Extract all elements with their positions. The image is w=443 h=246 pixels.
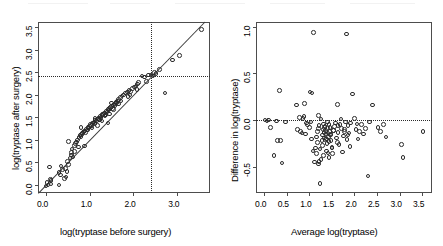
- data-point: [311, 30, 316, 35]
- data-point: [348, 144, 353, 149]
- x-tick-label-R3: 1.5: [323, 199, 334, 209]
- data-point: [330, 145, 335, 150]
- data-point: [314, 151, 319, 156]
- y-tick-L0: [35, 185, 38, 186]
- data-point: [378, 129, 383, 134]
- vertical-threshold-line: [151, 22, 152, 193]
- y-tick-L7: [35, 27, 38, 28]
- data-point: [335, 140, 340, 145]
- data-point: [268, 125, 273, 130]
- x-axis-title-left: log(tryptase before surgery): [60, 226, 171, 237]
- data-point: [49, 178, 54, 183]
- y-tick-label-L7: 3.5: [24, 26, 34, 37]
- data-point: [399, 142, 404, 147]
- data-point: [321, 153, 326, 158]
- data-point: [66, 162, 71, 167]
- x-tick-R2: [309, 193, 310, 196]
- data-point: [177, 53, 182, 58]
- data-point: [309, 137, 314, 142]
- data-point: [57, 170, 62, 175]
- x-tick-L0: [46, 193, 47, 196]
- y-tick-R0: [253, 167, 256, 168]
- data-point: [317, 159, 322, 164]
- y-tick-label-R3: 1.0: [242, 25, 252, 36]
- x-tick-R4: [354, 193, 355, 196]
- x-tick-label-R5: 2.5: [368, 199, 379, 209]
- x-axis-title-right: Average log(tryptase): [291, 226, 377, 237]
- x-tick-R7: [422, 193, 423, 196]
- data-point: [350, 92, 355, 97]
- data-point: [66, 139, 71, 144]
- data-point: [85, 128, 90, 133]
- x-tick-label-R6: 3.0: [391, 199, 402, 209]
- x-tick-L2: [133, 193, 134, 196]
- data-point: [135, 87, 140, 92]
- data-point: [95, 123, 100, 128]
- x-tick-label-R4: 2.0: [345, 199, 356, 209]
- x-tick-R6: [400, 193, 401, 196]
- data-point: [315, 140, 320, 145]
- data-point: [342, 127, 347, 132]
- data-point: [307, 125, 312, 130]
- data-point: [116, 102, 121, 107]
- data-point: [152, 70, 157, 75]
- data-point: [277, 88, 282, 93]
- data-point: [278, 138, 283, 143]
- x-tick-label-L0: 0.0: [37, 199, 48, 209]
- x-tick-R1: [287, 193, 288, 196]
- data-point: [330, 151, 335, 156]
- y-tick-R3: [253, 27, 256, 28]
- data-point: [136, 80, 141, 85]
- y-tick-L1: [35, 162, 38, 163]
- data-point: [361, 132, 366, 137]
- data-point: [340, 150, 345, 155]
- y-axis-title-left: log(tryptase after surgery): [10, 67, 21, 170]
- data-point: [76, 145, 81, 150]
- x-tick-R0: [264, 193, 265, 196]
- data-point: [170, 58, 175, 63]
- y-tick-L4: [35, 95, 38, 96]
- data-point: [363, 126, 368, 131]
- data-point: [69, 153, 74, 158]
- y-tick-L2: [35, 140, 38, 141]
- x-tick-label-R7: 3.5: [413, 199, 424, 209]
- data-point: [65, 169, 70, 174]
- data-point: [109, 101, 114, 106]
- y-tick-label-L4: 2.0: [24, 94, 34, 105]
- data-point: [302, 114, 307, 119]
- y-tick-label-L5: 2.5: [24, 71, 34, 82]
- data-point: [302, 101, 307, 106]
- horizontal-threshold-line: [38, 76, 210, 77]
- x-tick-label-L3: 3.0: [168, 199, 179, 209]
- data-point: [144, 79, 149, 84]
- y-tick-label-R0: -0.5: [242, 163, 252, 177]
- data-point: [107, 112, 112, 117]
- y-tick-label-L3: 1.5: [24, 116, 34, 127]
- y-tick-label-L6: 3.0: [24, 49, 34, 60]
- plot-frame-right: [256, 22, 432, 193]
- x-tick-L3: [177, 193, 178, 196]
- y-tick-L6: [35, 50, 38, 51]
- x-tick-label-R0: 0.0: [255, 199, 266, 209]
- y-tick-label-R1: 0.0: [242, 119, 252, 130]
- y-tick-label-R2: 0.5: [242, 72, 252, 83]
- y-tick-L3: [35, 117, 38, 118]
- data-point: [381, 122, 386, 127]
- data-point: [352, 116, 357, 121]
- x-tick-label-R1: 0.5: [278, 199, 289, 209]
- data-point: [314, 135, 319, 140]
- x-tick-L1: [90, 193, 91, 196]
- data-point: [320, 143, 325, 148]
- y-axis-title-right: Difference in log(tryptase): [229, 79, 240, 182]
- data-point: [335, 102, 340, 107]
- data-point: [79, 125, 84, 130]
- x-tick-R3: [332, 193, 333, 196]
- y-tick-label-L1: 0.5: [24, 161, 34, 172]
- data-point: [421, 129, 426, 134]
- x-tick-R5: [377, 193, 378, 196]
- data-point: [322, 125, 327, 130]
- data-point: [146, 73, 151, 78]
- x-tick-label-L1: 1.0: [81, 199, 92, 209]
- data-point: [331, 128, 336, 133]
- y-tick-label-L0: 0.0: [24, 184, 34, 195]
